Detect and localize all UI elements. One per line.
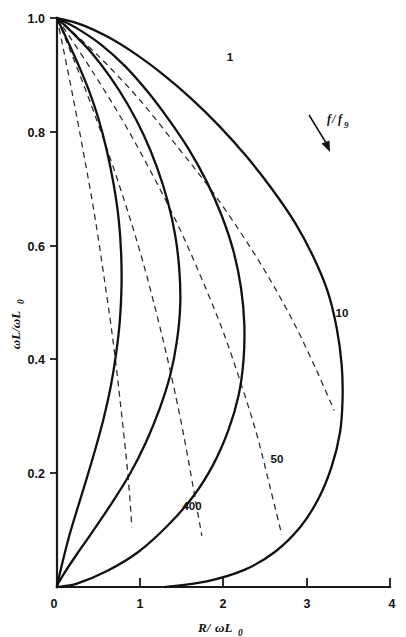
y-axis-title-text: ωL/ωL bbox=[8, 311, 23, 349]
ratio-arrow-head bbox=[322, 141, 331, 153]
y-axis-title: ωL/ωL 0 bbox=[8, 299, 26, 349]
dashed-curve-locus-a bbox=[57, 18, 334, 411]
curve-label-10: 10 bbox=[336, 307, 349, 319]
curve-50 bbox=[57, 18, 180, 585]
ratio-label-denominator: f bbox=[338, 112, 343, 126]
dashed-curves-group bbox=[57, 18, 334, 536]
ratio-annotation-group: f / f 9 bbox=[309, 112, 349, 152]
curve-label-400: 400 bbox=[182, 500, 201, 512]
y-axis-title-sub: 0 bbox=[16, 299, 26, 304]
ratio-label-subscript: 9 bbox=[344, 120, 349, 130]
curve-label-50: 50 bbox=[271, 453, 284, 465]
chart-figure: 1.0 0.8 0.6 0.4 0.2 0 1 2 3 4 bbox=[0, 0, 406, 637]
x-axis-title: R/ωL0 R/ ωL 0 bbox=[197, 620, 243, 637]
curve-10 bbox=[57, 18, 244, 587]
x-tick-label-0: 0 bbox=[51, 597, 58, 611]
chart-svg: 1.0 0.8 0.6 0.4 0.2 0 1 2 3 4 bbox=[0, 0, 406, 637]
x-tick-label-1: 1 bbox=[137, 597, 144, 611]
y-tick-label-0.4: 0.4 bbox=[28, 353, 45, 367]
y-tick-label-0.8: 0.8 bbox=[28, 126, 45, 140]
x-tick-label-3: 3 bbox=[304, 597, 311, 611]
y-tick-label-0.2: 0.2 bbox=[28, 467, 45, 481]
x-axis-title-omega-l: ωL bbox=[215, 620, 232, 635]
x-axis-title-sub: 0 bbox=[238, 628, 243, 637]
ratio-arrow-shaft bbox=[309, 115, 328, 146]
y-tick-label-1.0: 1.0 bbox=[28, 12, 45, 26]
x-axis-title-r: R/ bbox=[197, 620, 212, 635]
x-tick-label-2: 2 bbox=[220, 597, 227, 611]
ratio-label-slash: / bbox=[331, 112, 337, 126]
curve-label-1: 1 bbox=[227, 51, 234, 63]
x-tick-label-4: 4 bbox=[389, 597, 396, 611]
y-tick-label-0.6: 0.6 bbox=[28, 240, 45, 254]
